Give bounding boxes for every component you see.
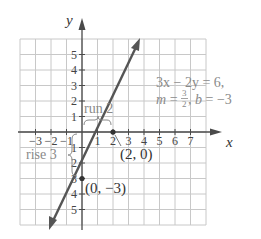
run-label: run 2 — [84, 101, 113, 116]
slope-denominator: 2 — [182, 99, 187, 109]
x-tick-label: −3 — [29, 134, 42, 148]
x-tick-label: −2 — [45, 134, 58, 148]
x-tick-label: 2 — [110, 134, 116, 148]
point-x-intercept — [110, 129, 115, 134]
x-intercept-label: (2, 0) — [120, 146, 153, 163]
slope-numerator: 3 — [182, 88, 187, 98]
y-tick-label: 1 — [71, 110, 77, 124]
x-tick-label: 6 — [172, 134, 178, 148]
x-tick-label: 7 — [188, 134, 194, 148]
line-arrow-top-icon — [131, 38, 140, 51]
x-axis-label: x — [225, 134, 233, 150]
line-arrow-bottom-icon — [49, 216, 57, 230]
x-tick-label: 5 — [157, 134, 163, 148]
y-axis-label: y — [64, 12, 73, 28]
y-tick-label: 5 — [71, 48, 77, 62]
x-tick-label: 1 — [95, 134, 101, 148]
point-y-intercept — [79, 176, 84, 181]
y-tick-label: 4 — [71, 187, 77, 201]
intercept-text: , b = −3 — [188, 92, 232, 107]
y-tick-label: 5 — [71, 203, 77, 217]
y-axis-arrow-icon — [79, 18, 86, 30]
x-axis-arrow-icon — [210, 129, 222, 136]
slope-prefix: m = — [156, 92, 178, 107]
coordinate-graph: x y −3−2−112345671234512345 run 2 rise 3… — [0, 0, 261, 239]
equation-label: 3x − 2y = 6, — [156, 75, 224, 90]
y-tick-label: 3 — [71, 79, 77, 93]
y-intercept-label: (0, −3) — [85, 180, 126, 197]
y-tick-label: 2 — [71, 94, 77, 108]
y-tick-label: 4 — [71, 63, 77, 77]
rise-label: rise 3 — [26, 147, 57, 162]
